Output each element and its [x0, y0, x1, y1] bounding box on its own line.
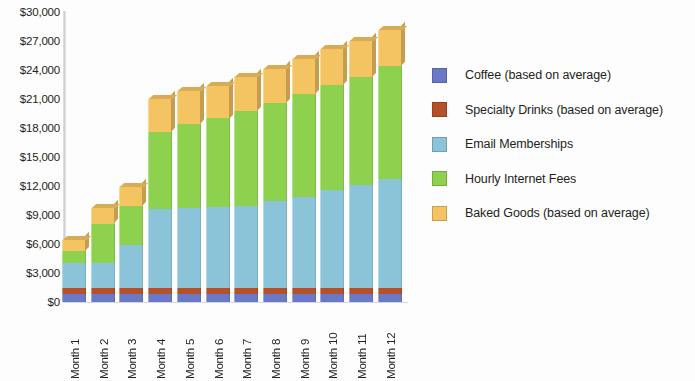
bar-segment[interactable] [62, 263, 86, 288]
stacked-bar[interactable] [263, 69, 287, 302]
x-axis-tick-label: Month 7 [241, 307, 253, 379]
legend-item-label: Email Memberships [465, 137, 573, 151]
stacked-bar[interactable] [349, 41, 373, 302]
bar-segment[interactable] [349, 77, 373, 185]
stacked-bar[interactable] [62, 240, 86, 302]
bar-segment[interactable] [148, 132, 172, 209]
bar-segment[interactable] [177, 91, 201, 124]
x-axis-tick-label: Month 1 [69, 307, 81, 379]
chart-canvas: $30,000$27,000$24,000$21,000$18,000$15,0… [0, 0, 695, 381]
legend-swatch-icon [432, 68, 447, 83]
stacked-bar[interactable] [177, 91, 201, 302]
legend-item[interactable]: Coffee (based on average) [432, 58, 695, 93]
bar-segment[interactable] [263, 103, 287, 202]
bar-segment[interactable] [320, 294, 344, 302]
bar-segment[interactable] [292, 197, 316, 289]
legend-item[interactable]: Hourly Internet Fees [432, 162, 695, 197]
legend-swatch-icon [432, 102, 447, 117]
legend-item-label: Specialty Drinks (based on average) [465, 103, 663, 117]
bar-segment[interactable] [148, 294, 172, 302]
bar-segment[interactable] [263, 294, 287, 302]
stacked-bar[interactable] [378, 30, 402, 302]
bar-segment[interactable] [378, 66, 402, 179]
bar-segment[interactable] [177, 208, 201, 288]
bar-segment[interactable] [91, 208, 115, 223]
bar-segment[interactable] [91, 224, 115, 264]
bar-segment[interactable] [206, 207, 230, 288]
stacked-bar[interactable] [119, 187, 143, 302]
bar-segment[interactable] [378, 179, 402, 288]
x-axis-tick-label: Month 11 [356, 307, 368, 379]
stacked-bar[interactable] [148, 99, 172, 302]
bar-segment[interactable] [234, 111, 258, 207]
stacked-bar[interactable] [91, 208, 115, 302]
x-axis-tick-label: Month 8 [270, 307, 282, 379]
x-axis-tick-label: Month 6 [213, 307, 225, 379]
stacked-bar[interactable] [292, 59, 316, 302]
x-axis-tick-label: Month 5 [184, 307, 196, 379]
bar-segment[interactable] [292, 94, 316, 196]
bar-segment[interactable] [148, 209, 172, 288]
x-axis-tick-label: Month 2 [98, 307, 110, 379]
bar-segment[interactable] [263, 69, 287, 103]
legend-swatch-icon [432, 137, 447, 152]
bar-segment[interactable] [320, 85, 344, 190]
bar-segment[interactable] [62, 240, 86, 251]
bar-segment[interactable] [234, 206, 258, 288]
chart-legend: Coffee (based on average)Specialty Drink… [432, 58, 695, 231]
bar-segment[interactable] [119, 206, 143, 245]
x-axis-tick-label: Month 4 [155, 307, 167, 379]
bar-group: Month 1Month 2Month 3Month 4Month 5Month… [0, 0, 420, 381]
bar-segment[interactable] [206, 118, 230, 207]
x-axis-tick-label: Month 10 [327, 307, 339, 379]
bar-segment[interactable] [234, 77, 258, 111]
bar-segment[interactable] [234, 294, 258, 302]
legend-swatch-icon [432, 206, 447, 221]
x-axis-tick-label: Month 12 [385, 307, 397, 379]
bar-segment[interactable] [378, 294, 402, 302]
bar-segment[interactable] [62, 294, 86, 302]
bar-segment[interactable] [320, 190, 344, 289]
legend-swatch-icon [432, 171, 447, 186]
bar-segment[interactable] [119, 187, 143, 206]
x-axis-tick-label: Month 9 [299, 307, 311, 379]
bar-segment[interactable] [349, 294, 373, 302]
bar-segment[interactable] [320, 49, 344, 85]
bar-segment[interactable] [91, 294, 115, 302]
bar-segment[interactable] [206, 294, 230, 302]
bar-segment[interactable] [177, 124, 201, 208]
bar-segment[interactable] [177, 294, 201, 302]
bar-segment[interactable] [292, 294, 316, 302]
legend-item-label: Hourly Internet Fees [465, 172, 576, 186]
bar-segment[interactable] [148, 99, 172, 132]
legend-item[interactable]: Specialty Drinks (based on average) [432, 93, 695, 128]
stacked-bar[interactable] [320, 49, 344, 302]
bar-segment[interactable] [263, 201, 287, 288]
bar-segment[interactable] [292, 59, 316, 94]
bar-segment[interactable] [119, 294, 143, 302]
legend-item[interactable]: Baked Goods (based on average) [432, 196, 695, 231]
legend-item-label: Baked Goods (based on average) [465, 206, 650, 220]
bar-segment[interactable] [62, 251, 86, 264]
plot-area: $30,000$27,000$24,000$21,000$18,000$15,0… [0, 0, 420, 381]
legend-item-label: Coffee (based on average) [465, 68, 611, 82]
bar-segment[interactable] [349, 41, 373, 77]
bar-segment[interactable] [349, 185, 373, 288]
legend-item[interactable]: Email Memberships [432, 127, 695, 162]
stacked-bar[interactable] [234, 77, 258, 302]
bar-segment[interactable] [378, 30, 402, 66]
stacked-bar[interactable] [206, 86, 230, 302]
bar-segment[interactable] [206, 86, 230, 119]
bar-segment[interactable] [91, 263, 115, 288]
bar-segment[interactable] [119, 245, 143, 289]
x-axis-tick-label: Month 3 [126, 307, 138, 379]
